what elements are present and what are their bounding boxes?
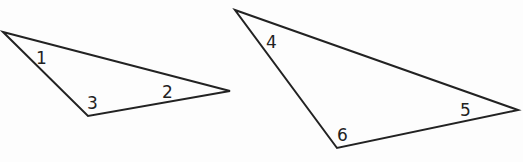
triangle-left: 1 2 3	[3, 32, 230, 116]
triangle-right-shape	[235, 10, 518, 148]
angle-label-6: 6	[337, 125, 348, 145]
triangle-left-shape	[3, 32, 230, 116]
triangles-diagram: 1 2 3 4 5 6	[0, 0, 523, 162]
triangle-right: 4 5 6	[235, 10, 518, 148]
angle-label-3: 3	[87, 93, 98, 113]
angle-label-5: 5	[460, 100, 471, 120]
diagram-svg: 1 2 3 4 5 6	[0, 0, 523, 162]
angle-label-2: 2	[162, 82, 173, 102]
angle-label-1: 1	[36, 48, 47, 68]
angle-label-4: 4	[266, 32, 277, 52]
